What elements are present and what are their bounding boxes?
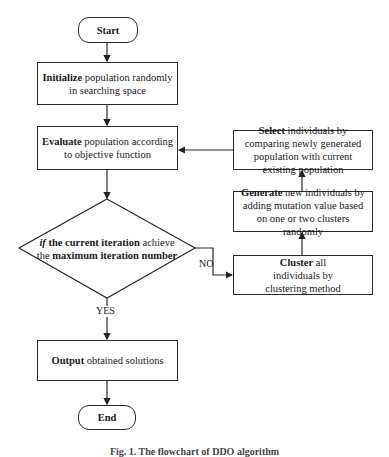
evaluate-keyword: Evaluate — [42, 136, 82, 147]
yes-label: YES — [96, 305, 115, 316]
output-step: Output obtained solutions — [37, 340, 178, 381]
generate-step: Generate new individuals by adding mutat… — [233, 191, 373, 232]
no-label: NO — [199, 258, 213, 269]
select-keyword: Select — [259, 125, 285, 136]
evaluate-step: Evaluate population according to objecti… — [37, 126, 178, 170]
decision-condition: if the current iteration achieve the max… — [19, 236, 195, 262]
generate-keyword: Generate — [241, 187, 282, 198]
initialize-text: population randomly in searching space — [69, 72, 173, 96]
initialize-keyword: Initialize — [42, 72, 82, 83]
start-terminal: Start — [78, 17, 138, 43]
end-label: End — [98, 411, 117, 424]
initialize-step: Initialize population randomly in search… — [37, 62, 178, 105]
output-text: obtained solutions — [84, 355, 163, 366]
end-terminal: End — [78, 405, 136, 430]
cluster-step: Cluster all individuals by clustering me… — [233, 255, 373, 295]
select-step: Select individuals by comparing newly ge… — [233, 130, 373, 170]
output-keyword: Output — [51, 355, 84, 366]
start-label: Start — [97, 24, 120, 37]
cluster-keyword: Cluster — [280, 257, 313, 268]
figure-caption: Fig. 1. The flowchart of DDO algorithm — [0, 446, 389, 457]
